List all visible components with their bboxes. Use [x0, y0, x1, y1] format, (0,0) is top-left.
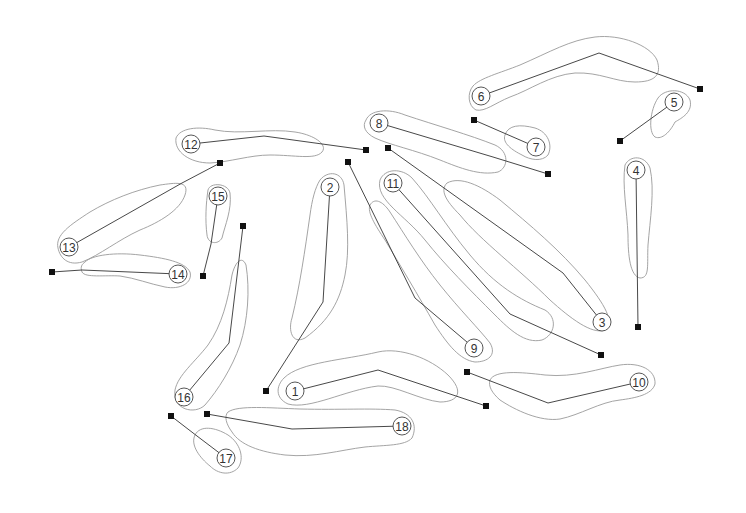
hole-number: 7 [533, 141, 540, 155]
hole-number: 13 [62, 241, 76, 255]
tee-marker-icon [385, 145, 391, 151]
hole-13: 13 [60, 160, 223, 256]
hole-12: 12 [182, 135, 369, 153]
hole-number: 3 [599, 316, 606, 330]
fairway-16 [175, 260, 248, 410]
hole-number: 16 [177, 391, 191, 405]
tee-marker-icon [204, 411, 210, 417]
tee-marker-icon [168, 413, 174, 419]
tee-marker-icon [363, 147, 369, 153]
hole-line [636, 170, 638, 327]
hole-number: 15 [211, 190, 225, 204]
hole-5: 5 [617, 93, 683, 144]
hole-16: 16 [175, 223, 246, 406]
hole-number: 9 [471, 342, 478, 356]
fairway-18 [226, 408, 414, 456]
hole-number: 14 [171, 268, 185, 282]
hole-line [348, 162, 474, 348]
hole-3: 3 [385, 145, 611, 331]
golf-course-map: 123456789101112131415161718 [0, 0, 746, 513]
hole-7: 7 [471, 117, 545, 156]
hole-number: 12 [184, 138, 198, 152]
tee-marker-icon [49, 269, 55, 275]
hole-number: 11 [387, 177, 400, 191]
hole-10: 10 [464, 369, 648, 403]
fairway-10 [489, 364, 655, 419]
hole-number: 17 [219, 452, 233, 466]
hole-line [191, 136, 366, 150]
tee-marker-icon [617, 138, 623, 144]
hole-line [203, 196, 218, 276]
hole-number: 4 [633, 164, 640, 178]
hole-4: 4 [627, 161, 645, 330]
tee-marker-icon [200, 273, 206, 279]
hole-line [69, 163, 220, 247]
hole-number: 8 [376, 117, 383, 131]
tee-marker-icon [545, 171, 551, 177]
hole-number: 1 [292, 385, 299, 399]
tee-marker-icon [635, 324, 641, 330]
tee-marker-icon [471, 117, 477, 123]
hole-number: 5 [671, 96, 678, 110]
fairway-1 [278, 351, 458, 405]
hole-line [474, 120, 536, 147]
hole-line [171, 416, 226, 458]
hole-number: 2 [327, 181, 334, 195]
hole-line [393, 183, 601, 355]
tee-marker-icon [697, 86, 703, 92]
hole-number: 18 [395, 420, 409, 434]
tee-marker-icon [263, 388, 269, 394]
hole-line [184, 226, 243, 397]
hole-9: 9 [345, 159, 483, 357]
fairway-11 [379, 171, 553, 341]
hole-number: 6 [478, 90, 485, 104]
fairway-3 [444, 181, 609, 331]
fairways [58, 37, 691, 474]
tee-marker-icon [240, 223, 246, 229]
tee-marker-icon [483, 403, 489, 409]
hole-line [207, 414, 402, 429]
fairway-2 [291, 174, 348, 340]
tee-marker-icon [345, 159, 351, 165]
hole-1: 1 [286, 370, 489, 409]
tee-marker-icon [464, 369, 470, 375]
hole-line [481, 53, 700, 96]
hole-line [52, 270, 178, 274]
fairway-6 [469, 37, 658, 111]
tee-marker-icon [598, 352, 604, 358]
holes: 123456789101112131415161718 [49, 53, 703, 467]
hole-14: 14 [49, 265, 187, 283]
hole-18: 18 [204, 411, 411, 435]
tee-marker-icon [217, 160, 223, 166]
hole-11: 11 [384, 174, 604, 358]
hole-line [620, 102, 674, 141]
hole-17: 17 [168, 413, 235, 467]
hole-number: 10 [632, 376, 646, 390]
